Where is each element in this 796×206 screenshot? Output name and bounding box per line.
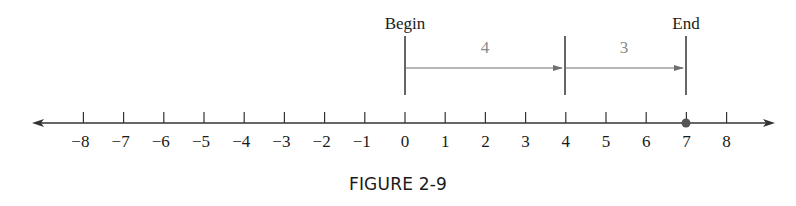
tick-label: 3 xyxy=(521,132,530,151)
tick-label: 6 xyxy=(642,132,651,151)
tick-labels: −8−7−6−5−4−3−2−1012345678 xyxy=(71,132,730,151)
tick-label: −4 xyxy=(232,132,251,151)
tick-label: 0 xyxy=(401,132,410,151)
tick-label: −7 xyxy=(112,132,131,151)
tick-label: −5 xyxy=(192,132,210,151)
segment-label-2: 3 xyxy=(620,38,629,57)
axis xyxy=(32,119,775,127)
tick-label: 7 xyxy=(682,132,691,151)
end-label: End xyxy=(672,14,700,33)
tick-label: 8 xyxy=(722,132,731,151)
tick-marks xyxy=(83,112,726,123)
point-at-7 xyxy=(682,119,691,128)
tick-label: 2 xyxy=(481,132,490,151)
tick-label: 4 xyxy=(562,132,571,151)
tick-label: −6 xyxy=(152,132,170,151)
tick-label: 5 xyxy=(602,132,611,151)
tick-label: −3 xyxy=(272,132,290,151)
tick-label: −8 xyxy=(71,132,89,151)
tick-label: −1 xyxy=(353,132,371,151)
tick-label: −2 xyxy=(313,132,331,151)
tick-label: 1 xyxy=(441,132,450,151)
figure-caption: FIGURE 2-9 xyxy=(0,174,796,194)
segment-label-1: 4 xyxy=(481,38,490,57)
begin-label: Begin xyxy=(385,14,426,33)
